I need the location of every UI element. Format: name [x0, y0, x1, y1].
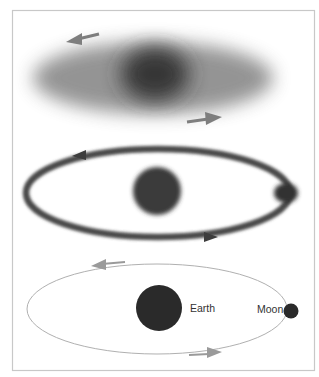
moon-formation-diagram: Earth Moon: [0, 0, 319, 377]
central-body: [133, 167, 181, 215]
moon-label: Moon: [257, 303, 283, 315]
forming-moonlet: [274, 183, 298, 203]
cloud-dense-core: [121, 47, 189, 101]
earth: [136, 285, 182, 331]
earth-label: Earth: [190, 302, 215, 314]
moon: [284, 304, 299, 319]
